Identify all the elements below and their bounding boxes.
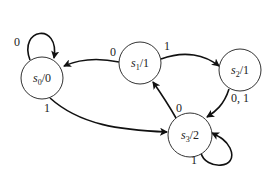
svg-text:s2/1: s2/1 xyxy=(231,63,249,79)
edge-s0-s3 xyxy=(50,98,167,132)
state-s3: s3/2 xyxy=(168,113,212,157)
edge-s2-s3 xyxy=(207,89,229,117)
state-s2: s2/1 xyxy=(219,49,261,91)
state-s1-output: /1 xyxy=(140,56,149,70)
label-s0-s3: 1 xyxy=(44,101,50,115)
edge-s1-s2 xyxy=(161,54,219,66)
edge-s0-s0 xyxy=(28,33,55,60)
state-s2-output: /1 xyxy=(240,63,249,77)
label-s3-s3: 1 xyxy=(191,153,197,167)
label-s1-s0: 0 xyxy=(110,45,116,59)
state-diagram: s0/0 s1/1 s2/1 s3/2 0 0 1 1 0, 1 0 1 xyxy=(0,0,278,177)
state-s3-output: /2 xyxy=(190,128,199,142)
label-s2-s3: 0, 1 xyxy=(231,91,249,105)
state-s1: s1/1 xyxy=(119,42,161,84)
svg-text:s1/1: s1/1 xyxy=(131,56,149,72)
state-s0-output: /0 xyxy=(42,71,51,85)
edge-s3-s1 xyxy=(153,82,176,118)
edge-s1-s0 xyxy=(64,59,119,66)
svg-text:s3/2: s3/2 xyxy=(181,128,199,144)
svg-text:s0/0: s0/0 xyxy=(33,71,51,87)
label-s3-s1: 0 xyxy=(176,101,182,115)
label-s0-s0: 0 xyxy=(14,35,20,49)
state-s0: s0/0 xyxy=(21,57,63,99)
label-s1-s2: 1 xyxy=(164,39,170,53)
